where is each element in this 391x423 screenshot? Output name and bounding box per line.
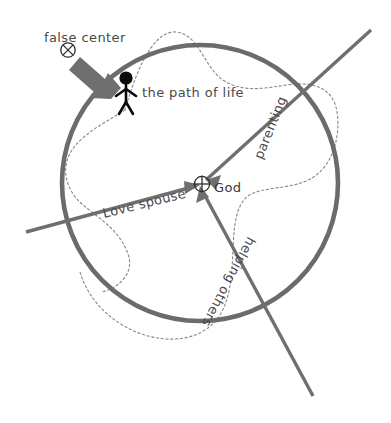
path-of-life-diagram: false center the path of life God parent… xyxy=(0,0,391,423)
diagram-canvas: false center the path of life God parent… xyxy=(0,0,391,423)
parenting-axis xyxy=(206,30,371,190)
love-spouse-label: Love spouse xyxy=(101,186,187,221)
path-of-life-label: the path of life xyxy=(142,85,244,100)
stick-figure-person xyxy=(116,71,136,114)
parenting-label: parenting xyxy=(251,94,290,161)
god-label: God xyxy=(214,180,241,195)
helping-others-axis xyxy=(196,186,313,396)
false-center-label: false center xyxy=(44,30,126,45)
